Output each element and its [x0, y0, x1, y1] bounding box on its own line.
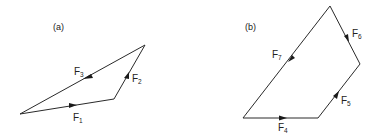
arrow-f2-icon: [124, 72, 129, 79]
force-polygon-figure: (a) F1 F2 F3 (b) F4 F5 F6 F7: [0, 0, 378, 135]
diagram-a: (a) F1 F2 F3: [20, 22, 145, 124]
diagram-b: (b) F4 F5 F6 F7: [243, 6, 362, 134]
label-f5: F5: [341, 95, 351, 107]
label-f2: F2: [132, 73, 142, 85]
triangle-a: [20, 45, 145, 114]
label-f6: F6: [352, 28, 362, 40]
panel-label-a: (a): [53, 22, 64, 32]
arrow-f4-icon: [279, 116, 287, 121]
label-f4: F4: [278, 122, 288, 134]
label-f3: F3: [74, 66, 84, 78]
panel-label-b: (b): [245, 22, 256, 32]
label-f7: F7: [272, 49, 282, 61]
label-f1: F1: [73, 112, 83, 124]
